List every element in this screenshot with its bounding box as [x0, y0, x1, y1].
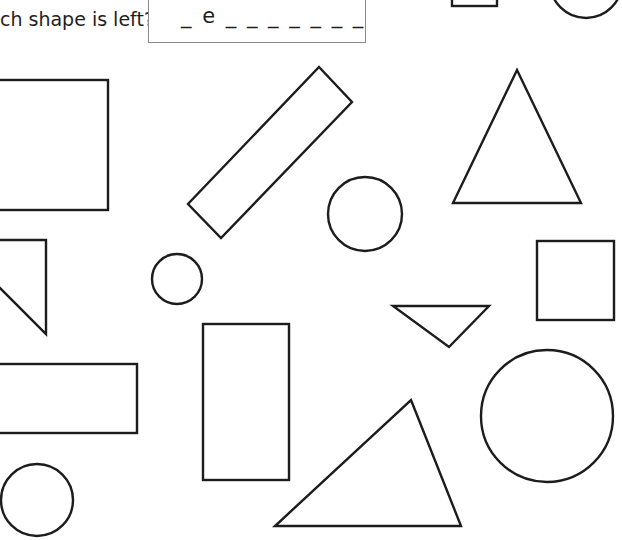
large-circle-right[interactable]	[481, 350, 613, 482]
triangle-top-right[interactable]	[453, 70, 581, 203]
wide-rectangle-left[interactable]	[0, 364, 137, 433]
triangle-bottom[interactable]	[275, 400, 461, 526]
shapes-canvas	[0, 0, 622, 540]
right-triangle-left[interactable]	[0, 240, 46, 334]
square-right[interactable]	[537, 241, 614, 320]
inverted-triangle[interactable]	[393, 306, 489, 347]
tall-rectangle[interactable]	[203, 324, 289, 480]
partial-circle-top-right[interactable]	[550, 0, 622, 18]
circle-bottom-left[interactable]	[1, 464, 73, 536]
partial-square-top[interactable]	[452, 0, 497, 6]
small-circle[interactable]	[152, 254, 202, 304]
large-rectangle-left[interactable]	[0, 80, 108, 210]
circle-center[interactable]	[328, 177, 402, 251]
